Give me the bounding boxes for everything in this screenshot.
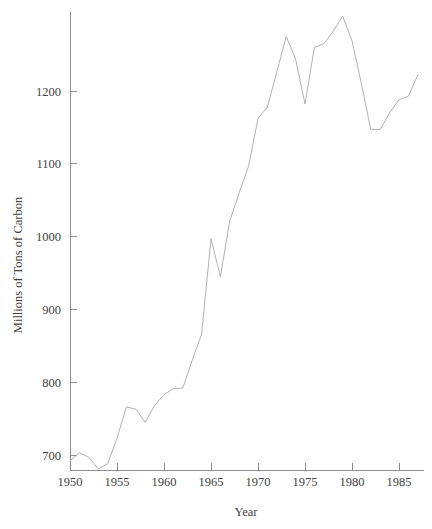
y-tick-label: 900: [42, 303, 61, 317]
y-tick-label: 800: [42, 376, 61, 390]
x-tick-label: 1980: [340, 475, 365, 489]
data-series-group: [70, 16, 418, 469]
y-axis-title: Millions of Tons of Carbon: [11, 196, 25, 333]
y-tick-label: 700: [42, 449, 61, 463]
x-tick-label: 1960: [152, 475, 177, 489]
carbon-emissions-line-chart: 7008009001000110012001950195519601965197…: [0, 0, 432, 529]
ticks-group: [70, 91, 399, 470]
emissions-series-line: [70, 16, 418, 469]
x-tick-label: 1985: [387, 475, 412, 489]
x-tick-label: 1970: [246, 475, 271, 489]
x-tick-label: 1965: [199, 475, 224, 489]
x-tick-label: 1975: [293, 475, 318, 489]
y-tick-label: 1000: [36, 230, 61, 244]
y-tick-label: 1100: [36, 157, 61, 171]
tick-labels-group: 7008009001000110012001950195519601965197…: [36, 85, 412, 490]
axes-group: [70, 12, 424, 470]
x-axis-title: Year: [234, 505, 258, 519]
x-tick-label: 1955: [105, 475, 130, 489]
plot-area: 7008009001000110012001950195519601965197…: [0, 0, 432, 529]
y-tick-label: 1200: [36, 85, 61, 99]
x-tick-label: 1950: [58, 475, 83, 489]
